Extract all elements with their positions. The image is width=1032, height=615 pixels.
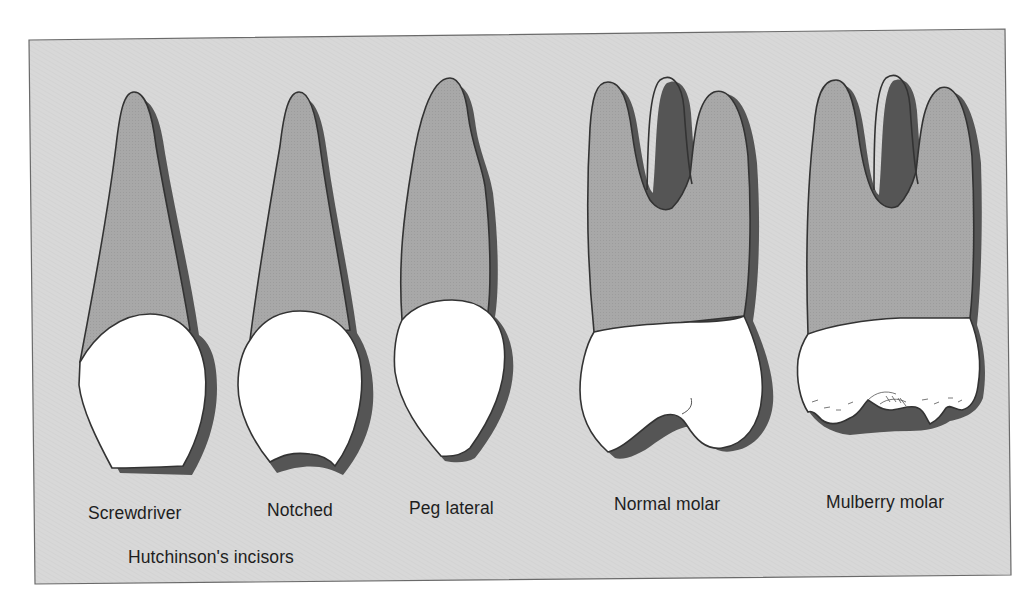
label-notched: Notched bbox=[267, 500, 333, 521]
label-screwdriver: Screwdriver bbox=[88, 503, 181, 524]
crown bbox=[238, 311, 362, 466]
label-peg-lateral: Peg lateral bbox=[409, 498, 494, 519]
label-hutchinsons-incisors: Hutchinson's incisors bbox=[128, 547, 294, 568]
tooth-normal-molar bbox=[580, 78, 773, 459]
tooth-mulberry-molar bbox=[797, 76, 985, 435]
label-normal-molar: Normal molar bbox=[614, 494, 720, 515]
label-mulberry-molar: Mulberry molar bbox=[826, 492, 944, 513]
